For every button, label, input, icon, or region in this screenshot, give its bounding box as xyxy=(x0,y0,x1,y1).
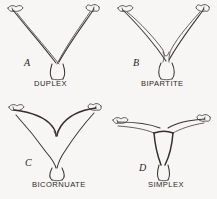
cervix-right-d xyxy=(168,165,170,180)
uterus-types-illustration xyxy=(0,0,217,199)
panel-letter-b: B xyxy=(133,58,139,68)
horn-right-upper-c xyxy=(57,108,96,136)
horn-left-outer-b xyxy=(123,10,166,61)
fimbria-left-detail-d xyxy=(117,120,118,123)
oviduct-right-lower-d xyxy=(173,123,204,133)
horn-right-outer-b xyxy=(169,9,204,60)
fimbria-left-c xyxy=(9,105,24,111)
horn-right-inner-b xyxy=(169,12,200,62)
panel-a-duplex-drawing xyxy=(8,5,99,80)
panel-letter-d: D xyxy=(139,163,146,173)
figure-container: A DUPLEX B BIPARTITE C BICORNUATE D SIMP… xyxy=(0,0,217,199)
horn-left-outer-a xyxy=(13,10,56,63)
uterus-body-left-d xyxy=(154,133,161,165)
fimbria-left-detail-a xyxy=(12,8,13,11)
fimbria-left-detail-c xyxy=(13,107,14,110)
cervix-left-d xyxy=(158,165,160,180)
panel-letter-c: C xyxy=(25,158,32,168)
panel-letter-a: A xyxy=(24,58,30,68)
fimbria-left-a xyxy=(8,6,23,12)
fimbria-right-d xyxy=(197,115,210,122)
panel-c-bicornuate-drawing xyxy=(9,104,101,181)
cervix-left-a xyxy=(51,64,53,79)
uterus-fundus-d xyxy=(154,132,173,134)
panel-caption-duplex: DUPLEX xyxy=(34,80,67,88)
horn-right-outer-a xyxy=(59,9,94,62)
panel-caption-bicornuate: BICORNUATE xyxy=(32,181,86,189)
oviduct-left-lower-d xyxy=(118,126,154,133)
panel-b-bipartite-drawing xyxy=(118,5,209,80)
panel-caption-simplex: SIMPLEX xyxy=(148,181,184,189)
panel-d-simplex-drawing xyxy=(113,115,210,181)
cervix-right-c xyxy=(62,168,64,180)
uterus-body-right-d xyxy=(165,133,173,165)
cervix-left-c xyxy=(50,168,52,180)
fimbria-right-c xyxy=(88,104,101,111)
fimbria-left-detail-b xyxy=(122,8,123,11)
panel-caption-bipartite: BIPARTITE xyxy=(141,80,184,88)
fimbria-left-b xyxy=(118,6,133,12)
horn-left-upper-c xyxy=(14,110,56,136)
cervix-right-b xyxy=(172,63,174,79)
cervix-left-b xyxy=(159,63,161,79)
horn-right-lower-c xyxy=(57,113,94,168)
cervix-right-a xyxy=(63,64,65,79)
fimbria-right-detail-d xyxy=(204,117,205,120)
